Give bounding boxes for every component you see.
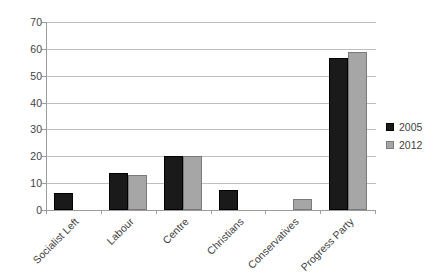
legend-item-2012: 2012: [386, 136, 438, 154]
legend-label-2012: 2012: [399, 140, 422, 151]
legend: 2005 2012: [386, 118, 438, 154]
legend-item-2005: 2005: [386, 118, 438, 136]
legend-label-2005: 2005: [399, 122, 422, 133]
bar-chart: 010203040506070 Socialist LeftLabourCent…: [0, 0, 440, 275]
x-axis-category-label: Socialist Left: [0, 216, 81, 275]
x-axis-labels: Socialist LeftLabourCentreChristiansCons…: [0, 0, 440, 275]
legend-swatch-2005-icon: [386, 123, 394, 131]
legend-swatch-2012-icon: [386, 141, 394, 149]
